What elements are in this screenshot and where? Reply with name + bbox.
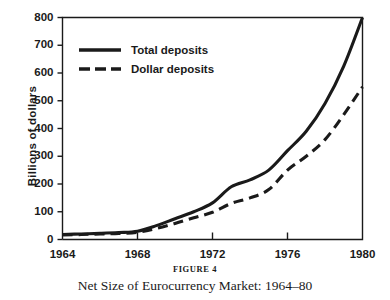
x-tick-label: 1968: [115, 249, 161, 261]
figure-number-caption: FIGURE 4: [0, 264, 390, 274]
y-tick-label: 0: [20, 234, 54, 246]
legend-swatch-dashed-line-icon: [78, 64, 122, 74]
x-tick-label: 1972: [190, 249, 236, 261]
x-tick-label: 1976: [265, 249, 311, 261]
y-tick-label: 100: [20, 206, 54, 218]
y-axis-ticks: [58, 18, 63, 240]
figure-title-caption: Net Size of Eurocurrency Market: 1964–80: [0, 278, 390, 294]
figure-container: Billions of dollars 01002003004005006007…: [0, 0, 390, 300]
y-tick-label: 200: [20, 178, 54, 190]
y-tick-label: 300: [20, 150, 54, 162]
legend-item-dollar-deposits: Dollar deposits: [78, 59, 214, 78]
y-tick-label: 800: [20, 12, 54, 24]
x-tick-label: 1980: [340, 249, 386, 261]
y-tick-label: 700: [20, 39, 54, 51]
legend-label-dollar-deposits: Dollar deposits: [131, 63, 214, 75]
legend-swatch-solid-line-icon: [78, 45, 122, 55]
x-tick-label: 1964: [40, 249, 86, 261]
series-line-dollar-deposits: [63, 87, 363, 235]
y-tick-label: 500: [20, 95, 54, 107]
y-tick-label: 400: [20, 123, 54, 135]
x-axis-ticks: [138, 233, 288, 240]
chart-legend: Total deposits Dollar deposits: [78, 40, 214, 78]
y-tick-label: 600: [20, 67, 54, 79]
legend-label-total-deposits: Total deposits: [131, 44, 208, 56]
legend-item-total-deposits: Total deposits: [78, 40, 214, 59]
